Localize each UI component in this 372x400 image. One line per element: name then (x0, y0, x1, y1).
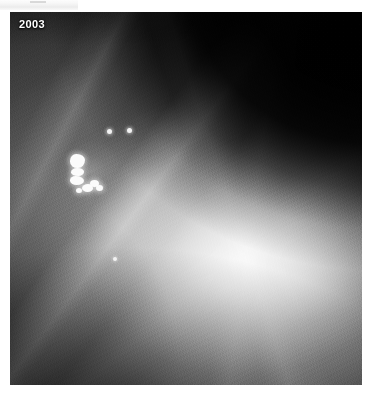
mammogram-image: 2003 (10, 12, 362, 385)
calcification-cluster-fleck-7 (76, 188, 82, 193)
film-grain-layer (10, 12, 362, 385)
calcification-dot-upper-right (107, 129, 112, 134)
calcification-cluster-fleck-6 (96, 185, 103, 191)
calcification-cluster-fleck-2 (71, 168, 84, 176)
calcification-cluster-fleck-3 (70, 176, 84, 185)
calcification-dot-lower (113, 257, 117, 261)
watermark-strip (0, 0, 78, 10)
calcification-dot-upper-far-right (127, 128, 132, 133)
year-label: 2003 (19, 18, 45, 30)
watermark-tick (30, 1, 46, 3)
